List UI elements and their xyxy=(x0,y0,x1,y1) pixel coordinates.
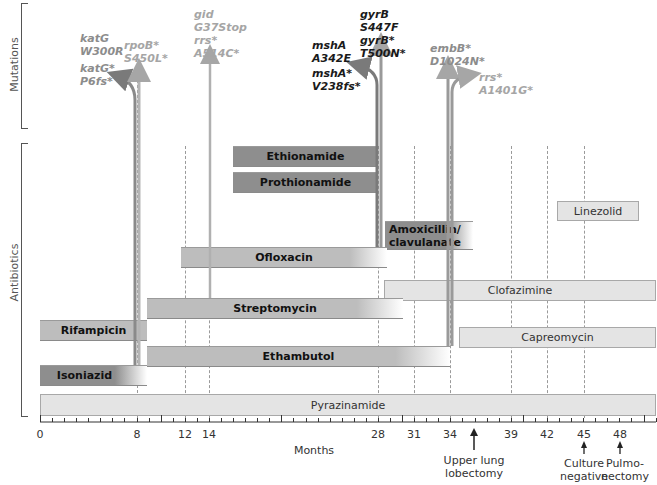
mutation-katg-p6fs: katG*P6fs* xyxy=(80,62,115,88)
mutation-gyrb: gyrBS447FgyrB*T500N* xyxy=(360,8,405,60)
mutation-msha-a342e: mshAA342E xyxy=(312,39,351,65)
mutation-msha-v238fs: mshA*V238fs* xyxy=(312,67,361,93)
axis-tick xyxy=(306,418,307,422)
axis-tick xyxy=(293,418,294,422)
axis-tick xyxy=(366,418,367,422)
axis-tick xyxy=(245,418,246,422)
arrow-lobectomy xyxy=(470,428,478,450)
tick-label-34: 34 xyxy=(443,428,457,441)
axis-tick xyxy=(269,418,270,422)
tick-label-39: 39 xyxy=(504,428,518,441)
axis-tick xyxy=(475,418,476,422)
mutation-gid-rrs: gidG37Stoprrs*A514C* xyxy=(194,8,247,60)
axis-tick xyxy=(571,418,572,422)
axis-tick xyxy=(40,415,41,422)
axis-tick xyxy=(197,418,198,422)
axis-tick xyxy=(438,418,439,422)
tick-label-42: 42 xyxy=(540,428,554,441)
arrow-pulmo xyxy=(617,441,623,454)
arrow-rrs xyxy=(452,75,470,346)
axis-tick xyxy=(52,418,53,422)
tick-label-12: 12 xyxy=(178,428,192,441)
tick-label-45: 45 xyxy=(577,428,591,441)
axis-tick xyxy=(161,415,162,422)
axis-tick xyxy=(137,418,138,422)
tick-label-14: 14 xyxy=(202,428,216,441)
axis-tick xyxy=(173,418,174,422)
axis-tick xyxy=(619,418,620,422)
axis-tick xyxy=(281,415,282,422)
arrow-culture xyxy=(581,441,587,454)
tick-label-8: 8 xyxy=(134,428,141,441)
axis-tick xyxy=(149,418,150,422)
axis-tick xyxy=(209,418,210,422)
axis-tick xyxy=(330,418,331,422)
axis-tick xyxy=(462,418,463,422)
tick-label-28: 28 xyxy=(371,428,385,441)
axis-tick xyxy=(511,418,512,422)
axis-tick xyxy=(535,418,536,422)
axis-tick xyxy=(233,418,234,422)
axis-tick xyxy=(100,418,101,422)
mutation-embb: embB*D1024N* xyxy=(430,42,485,68)
event-upper-lung-lobectomy: Upper lunglobectomy xyxy=(444,454,505,480)
axis-tick xyxy=(402,415,403,422)
tick-label-48: 48 xyxy=(613,428,627,441)
axis-tick xyxy=(487,418,488,422)
axis-tick xyxy=(390,418,391,422)
axis-tick xyxy=(644,415,645,422)
axis-tick xyxy=(88,418,89,422)
axis-tick xyxy=(559,418,560,422)
mutation-rpob: rpoB*S450L* xyxy=(124,39,168,65)
axis-tick xyxy=(318,418,319,422)
mutation-rrs-a1401g: rrs*A1401G* xyxy=(479,71,533,97)
axis-tick xyxy=(112,418,113,422)
axis-tick xyxy=(656,418,657,422)
axis-tick xyxy=(450,418,451,422)
axis-tick xyxy=(583,418,584,422)
event-pulmonectomy: Pulmo-nectomy xyxy=(601,457,649,483)
axis-tick xyxy=(595,418,596,422)
axis-tick xyxy=(547,418,548,422)
axis-tick xyxy=(523,415,524,422)
axis-tick xyxy=(257,418,258,422)
tick-label-31: 31 xyxy=(407,428,421,441)
axis-tick xyxy=(414,418,415,422)
axis-tick xyxy=(64,418,65,422)
arrow-katg xyxy=(118,76,135,365)
axis-tick xyxy=(354,418,355,422)
axis-tick xyxy=(124,418,125,422)
axis-tick xyxy=(342,418,343,422)
mutation-katg-w300r: katGW300R xyxy=(80,32,124,58)
axis-tick xyxy=(378,418,379,422)
axis-tick xyxy=(631,418,632,422)
axis-tick xyxy=(185,418,186,422)
axis-tick xyxy=(607,418,608,422)
axis-tick xyxy=(499,418,500,422)
axis-tick xyxy=(221,418,222,422)
x-axis-title: Months xyxy=(294,444,334,457)
axis-tick xyxy=(76,418,77,422)
axis-tick xyxy=(426,418,427,422)
tick-label-0: 0 xyxy=(37,428,44,441)
